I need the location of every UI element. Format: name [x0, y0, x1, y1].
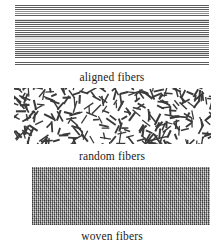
caption-random-fibers: random fibers [0, 150, 224, 163]
fiber-reinforcement-figure: aligned fibers random fibers woven fiber… [0, 0, 224, 248]
random-fiber-segments [14, 88, 211, 144]
caption-aligned-fibers: aligned fibers [0, 71, 224, 84]
aligned-fiber-texture [15, 5, 209, 66]
caption-woven-fibers: woven fibers [0, 230, 224, 243]
random-fiber-texture [14, 88, 211, 144]
weave-overlay [32, 167, 210, 225]
woven-fiber-texture [32, 167, 210, 225]
